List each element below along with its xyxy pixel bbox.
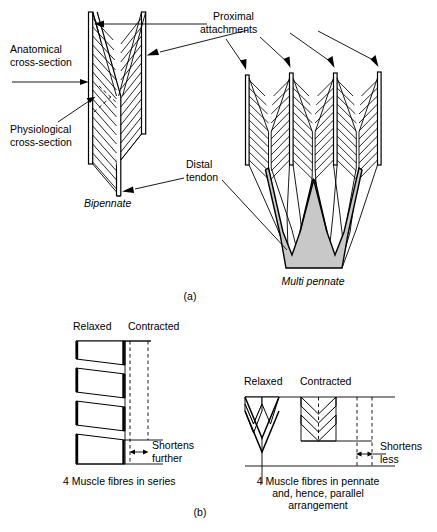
- figure-root: Bipennate: [0, 0, 437, 532]
- pennate-contracted-label: Contracted: [300, 375, 352, 387]
- figure-svg: Bipennate: [0, 0, 437, 532]
- fibres-in-series-diagram: Relaxed Contracted: [63, 320, 194, 487]
- pennate-relaxed-fibre-group: [245, 397, 279, 484]
- distal-tendon-leaders: [122, 178, 287, 250]
- series-fibre-4: [76, 434, 125, 464]
- multipennate-diagram: Multi pennate: [246, 72, 382, 287]
- series-fibre-2: [76, 368, 125, 398]
- multipennate-proximal-tendons: [246, 72, 382, 165]
- pennate-caption-line3: arrangement: [288, 499, 348, 511]
- series-fibre-3: [76, 401, 125, 431]
- series-shortens-label-line1: Shortens: [152, 439, 194, 451]
- pennate-relaxed-label: Relaxed: [244, 375, 283, 387]
- pennate-caption-line2: and, hence, parallel: [272, 487, 364, 499]
- physiological-cross-section-label-line1: Physiological: [10, 123, 71, 135]
- series-caption: 4 Muscle fibres in series: [63, 475, 176, 487]
- series-shortens-label-line2: further: [152, 452, 183, 464]
- pennate-shortens-arrow: [356, 452, 373, 457]
- multipennate-caption: Multi pennate: [281, 275, 344, 287]
- anatomical-cross-section-label-line2: cross-section: [10, 56, 72, 68]
- bipennate-diagram: Bipennate: [84, 12, 146, 209]
- pennate-shortens-label-line1: Shortens: [380, 440, 422, 452]
- series-shortens-arrow: [130, 450, 149, 455]
- pennate-shortens-label-line2: less: [380, 453, 399, 465]
- series-contracted-label: Contracted: [128, 320, 180, 332]
- proximal-attachments-label-line2: attachments: [200, 23, 257, 35]
- panel-b-id: (b): [194, 506, 207, 518]
- bipennate-right-proximal-tendon: [142, 12, 146, 134]
- anatomical-cross-section-label-line1: Anatomical: [10, 43, 62, 55]
- bipennate-caption: Bipennate: [84, 197, 131, 209]
- bipennate-left-proximal-tendon: [89, 12, 93, 164]
- proximal-attachments-label-line1: Proximal: [213, 10, 254, 22]
- anatomical-cross-section-leader: [12, 79, 89, 85]
- fibres-in-pennate-diagram: Relaxed Contracted: [244, 375, 422, 511]
- physiological-cross-section-label-line2: cross-section: [10, 136, 72, 148]
- panel-a-id: (a): [184, 290, 197, 302]
- series-fibre-1: [76, 341, 125, 365]
- distal-tendon-label-line1: Distal: [186, 158, 212, 170]
- distal-tendon-label-line2: tendon: [186, 171, 218, 183]
- pennate-caption-line1: 4 Muscle fibres in pennate: [257, 475, 380, 487]
- bipennate-right-fibres: [121, 18, 142, 160]
- series-relaxed-label: Relaxed: [73, 320, 112, 332]
